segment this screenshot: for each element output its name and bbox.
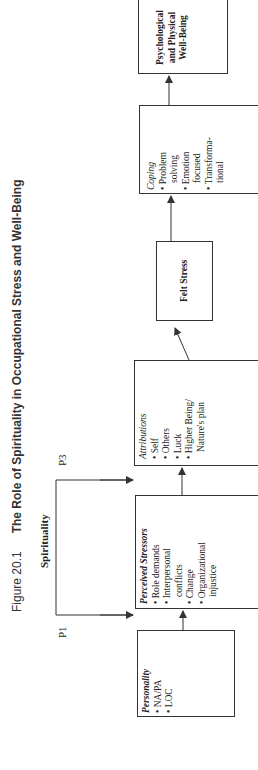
list-item: LOC	[164, 669, 176, 713]
coping-title: Coping	[146, 137, 158, 190]
list-item: Emotion	[181, 137, 193, 190]
list-item-continuation: Nature's plan	[196, 399, 208, 459]
well-being-line: and Physical	[167, 10, 179, 65]
list-item: Interpersonal	[162, 528, 174, 604]
well-being-line: Well-Being	[178, 10, 190, 65]
figure-number: Figure 20.1	[10, 551, 24, 612]
list-item: Others	[161, 399, 173, 459]
perceived-stressors-box: Perceived Stressors Role demands Interpe…	[135, 495, 258, 609]
figure-title: The Role of Spirituality in Occupational…	[10, 179, 24, 533]
path-p1-label: P1	[56, 626, 68, 638]
personality-box: Personality NA/PA LOC	[137, 630, 235, 717]
spirituality-label: Spirituality	[38, 514, 50, 568]
list-item-continuation: injustice	[208, 528, 220, 604]
personality-title: Personality	[141, 669, 153, 713]
felt-stress-box: Felt Stress	[156, 241, 213, 321]
list-item-continuation: solving	[169, 137, 181, 190]
list-item-continuation: conflicts	[174, 528, 186, 604]
list-item: Luck	[173, 399, 185, 459]
list-item: Problem	[158, 137, 170, 190]
path-p3-label: P3	[56, 454, 68, 466]
list-item: Higher Being/	[184, 399, 196, 459]
figure-caption: Figure 20.1The Role of Spirituality in O…	[10, 179, 24, 612]
perceived-stressors-title: Perceived Stressors	[139, 528, 151, 604]
list-item-continuation: tional	[215, 137, 227, 190]
attributions-title: Attributions	[138, 399, 150, 459]
list-item: Change	[185, 528, 197, 604]
list-item: Transforma-	[204, 137, 216, 190]
coping-box: Coping Problem solving Emotion focused T…	[139, 105, 258, 194]
list-item: Self	[150, 399, 162, 459]
attributions-box: Attributions Self Others Luck Higher Bei…	[134, 360, 258, 466]
felt-stress-title: Felt Stress	[179, 260, 191, 302]
list-item: Organizational	[197, 528, 209, 604]
list-item: NA/PA	[153, 669, 165, 713]
list-item-continuation: focused	[192, 137, 204, 190]
list-item: Role demands	[151, 528, 163, 604]
well-being-box: Psychological and Physical Well-Being	[138, 0, 228, 74]
well-being-line: Psychological	[155, 10, 167, 65]
